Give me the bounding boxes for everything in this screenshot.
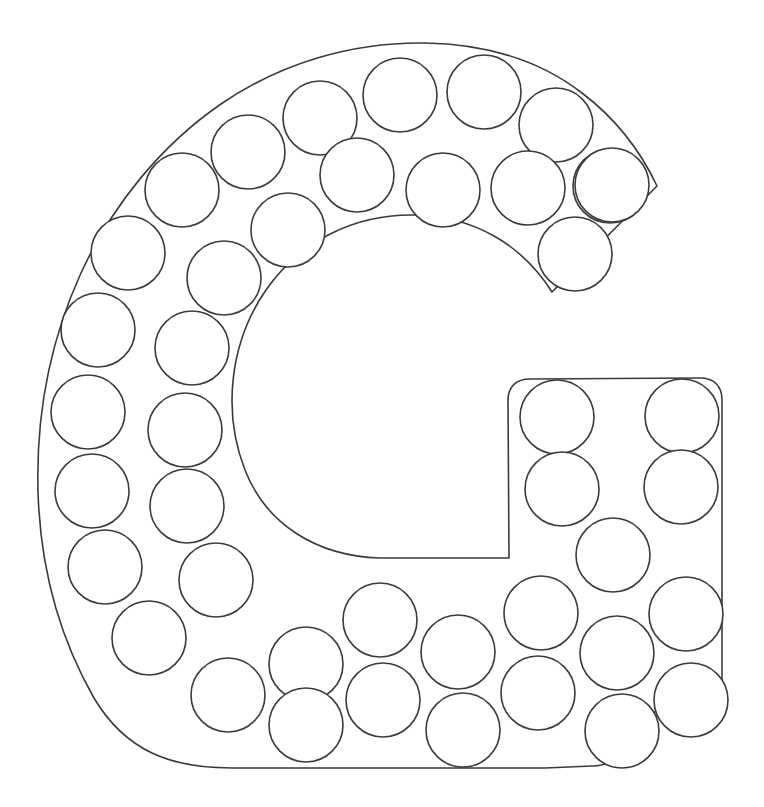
dot-circle [421, 615, 495, 689]
dot-circle [645, 379, 719, 453]
dot-circle [504, 576, 578, 650]
letter-g-dot-template [0, 0, 764, 807]
dot-circle [585, 694, 659, 768]
dot-circle [575, 148, 649, 222]
dot-circle [501, 656, 575, 730]
dot-circle [150, 469, 224, 543]
dot-circle [191, 658, 265, 732]
dot-circle [269, 688, 343, 762]
dot-circle [179, 543, 253, 617]
dot-circle [538, 217, 612, 291]
dot-circle [580, 616, 654, 690]
dot-circle [525, 452, 599, 526]
dot-circle [363, 58, 437, 132]
dot-circle [649, 577, 723, 651]
dot-circle [145, 153, 219, 227]
dot-circle [61, 293, 135, 367]
dot-circle [112, 601, 186, 675]
dot-circle [426, 693, 500, 767]
dot-circle [320, 138, 394, 212]
dot-circle [346, 663, 420, 737]
dot-circle [491, 151, 565, 225]
dot-circle [68, 530, 142, 604]
dot-circle [654, 663, 728, 737]
dot-circle [211, 115, 285, 189]
dot-circle [343, 583, 417, 657]
dot-circle [187, 241, 261, 315]
dot-circle [251, 193, 325, 267]
dot-circle [406, 153, 480, 227]
dot-circle [155, 311, 229, 385]
worksheet-canvas: Letter G Dot Marker Template [0, 0, 764, 807]
dot-circle [520, 380, 594, 454]
dot-circle [576, 518, 650, 592]
dot-circle [644, 450, 718, 524]
dot-circle [148, 393, 222, 467]
dot-circle [91, 216, 165, 290]
dot-circle [55, 454, 129, 528]
dot-circle [447, 55, 521, 129]
dot-circle [51, 375, 125, 449]
